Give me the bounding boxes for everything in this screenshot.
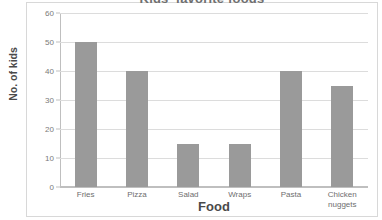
bar-slot xyxy=(317,13,368,187)
plot-area: 6050403020100 xyxy=(60,13,368,187)
bar-series xyxy=(60,13,368,187)
bar-slot xyxy=(163,13,214,187)
bar-slot xyxy=(214,13,265,187)
y-tick-label: 20 xyxy=(45,125,54,134)
y-tick-label: 0 xyxy=(50,183,54,192)
bar[interactable] xyxy=(229,144,251,188)
bar-slot xyxy=(111,13,162,187)
bar-slot xyxy=(265,13,316,187)
bar-slot xyxy=(60,13,111,187)
x-axis-title: Food xyxy=(60,199,368,214)
y-tick-label: 50 xyxy=(45,38,54,47)
bar[interactable] xyxy=(126,71,148,187)
gridline xyxy=(60,187,368,188)
bar[interactable] xyxy=(331,86,353,188)
y-tick-label: 10 xyxy=(45,154,54,163)
y-tick-label: 60 xyxy=(45,9,54,18)
bar[interactable] xyxy=(280,71,302,187)
y-tick-label: 40 xyxy=(45,67,54,76)
y-tick-label: 30 xyxy=(45,96,54,105)
bar[interactable] xyxy=(75,42,97,187)
bar[interactable] xyxy=(177,144,199,188)
chart-title: Kids' favorite foods xyxy=(26,0,378,5)
y-axis-title: No. of kids xyxy=(7,29,19,119)
